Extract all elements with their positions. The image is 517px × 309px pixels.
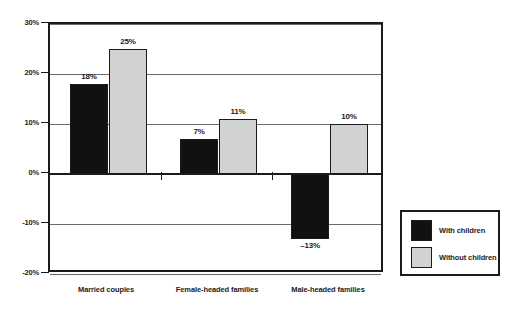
bar-value-label: –13% (285, 241, 335, 250)
plot-area: 18%25%7%11%–13%10% (48, 22, 383, 272)
bar (330, 124, 368, 174)
dark-swatch-icon (411, 220, 432, 241)
bar (219, 119, 257, 174)
y-tick-label: 20% (0, 68, 39, 77)
y-tick-label: 10% (0, 118, 39, 127)
bar-value-label: 11% (213, 107, 263, 116)
gridline--20% (50, 274, 381, 275)
category-separator-tick (272, 172, 273, 180)
light-swatch-icon (411, 247, 432, 268)
legend-item-without-children: Without children (411, 247, 497, 268)
bar (70, 84, 108, 174)
y-tick-mark (41, 272, 49, 273)
bar (291, 174, 329, 239)
y-tick-label: 30% (0, 18, 39, 27)
bar (109, 49, 147, 174)
bar-value-label: 18% (64, 72, 114, 81)
chart-legend: With children Without children (400, 210, 500, 276)
x-category-label: Male-headed families (291, 285, 364, 294)
bar-chart-figure: 30%20%10%0%-10%-20% 18%25%7%11%–13%10% M… (0, 0, 517, 309)
bar-value-label: 25% (103, 37, 153, 46)
x-category-label: Female-headed families (176, 285, 258, 294)
gridline-30% (50, 24, 381, 25)
category-separator-tick (161, 172, 162, 180)
y-tick-label: -20% (0, 268, 39, 277)
bar-value-label: 7% (174, 127, 224, 136)
bar-value-label: 10% (324, 112, 374, 121)
legend-item-with-children: With children (411, 220, 485, 241)
x-category-label: Married couples (78, 285, 134, 294)
legend-label: Without children (439, 253, 497, 262)
gridline--10% (50, 224, 381, 225)
y-tick-label: -10% (0, 218, 39, 227)
bar (180, 139, 218, 174)
legend-label: With children (439, 226, 485, 235)
y-tick-label: 0% (0, 168, 39, 177)
